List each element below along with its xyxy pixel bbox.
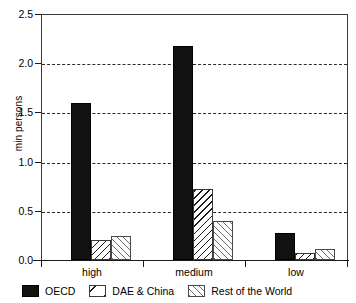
legend-label-dae: DAE & China	[112, 285, 174, 297]
y-tick-label: 2.0	[5, 58, 33, 68]
legend-swatch-row	[188, 285, 205, 297]
legend-entry-row: Rest of the World	[188, 285, 306, 297]
bar-oecd-high	[71, 103, 91, 260]
bar-row-high	[111, 236, 131, 261]
legend-label-row: Rest of the World	[211, 285, 292, 297]
x-tick-mark	[347, 260, 348, 267]
legend-label-oecd: OECD	[45, 285, 75, 297]
x-tick-label-high: high	[41, 266, 143, 278]
chart-legend: OECD DAE & China Rest of the World	[22, 285, 306, 297]
bar-dae-medium	[193, 189, 213, 261]
x-tick-label-medium: medium	[143, 266, 245, 278]
legend-swatch-dae	[89, 285, 106, 297]
y-tick-label: 0.0	[5, 255, 33, 265]
bar-row-medium	[213, 221, 233, 260]
bar-dae-high	[91, 240, 111, 260]
y-tick-label: 1.0	[5, 157, 33, 167]
y-tick-label: 1.5	[5, 107, 33, 117]
bar-row-low	[315, 249, 335, 260]
gridline-2-0	[42, 64, 347, 65]
plot-area	[41, 14, 348, 260]
bar-oecd-medium	[173, 46, 193, 260]
legend-swatch-oecd	[22, 285, 39, 297]
legend-entry-oecd: OECD	[22, 285, 89, 297]
y-axis-ticks: 2.5 2.0 1.5 1.0 0.5 0.0	[0, 0, 33, 303]
y-tick-label: 2.5	[5, 9, 33, 19]
x-axis-line	[33, 260, 349, 261]
bar-dae-low	[295, 253, 315, 260]
bar-oecd-low	[275, 233, 295, 260]
bar-chart-figure: min persons 2.5 2.0 1.5 1.0 0.5 0.0	[0, 0, 356, 303]
y-tick-label: 0.5	[5, 206, 33, 216]
x-tick-label-low: low	[245, 266, 347, 278]
legend-entry-dae: DAE & China	[89, 285, 188, 297]
